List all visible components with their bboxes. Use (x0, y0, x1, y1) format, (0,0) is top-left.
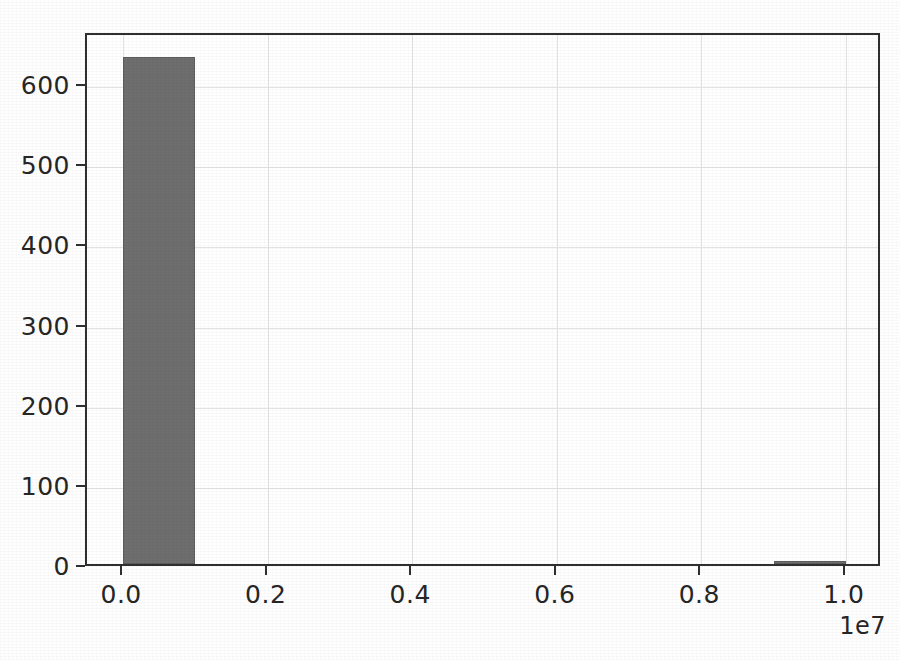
y-tick-mark (76, 325, 85, 327)
x-tick-label: 0.8 (644, 580, 754, 609)
x-tick-label: 0.6 (500, 580, 610, 609)
gridline-x-0.6 (557, 35, 558, 564)
x-tick-mark (843, 566, 845, 575)
y-tick-label: 500 (0, 151, 70, 180)
gridline-x-0.4 (412, 35, 413, 564)
y-tick-mark (76, 565, 85, 567)
gridline-y-100 (87, 488, 878, 489)
x-tick-label: 0.4 (355, 580, 465, 609)
x-tick-label: 1.0 (789, 580, 899, 609)
y-tick-mark (76, 405, 85, 407)
gridline-y-200 (87, 408, 878, 409)
y-tick-label: 600 (0, 71, 70, 100)
gridline-y-500 (87, 167, 878, 168)
y-tick-mark (76, 164, 85, 166)
x-tick-mark (554, 566, 556, 575)
matplotlib-figure: 0100200300400500600 0.00.20.40.60.81.0 1… (0, 0, 900, 660)
gridline-x-1.0 (846, 35, 847, 564)
y-tick-label: 300 (0, 311, 70, 340)
x-tick-label: 0.0 (66, 580, 176, 609)
gridline-y-300 (87, 328, 878, 329)
histogram-bar (774, 561, 846, 564)
y-tick-label: 100 (0, 471, 70, 500)
plot-axes (85, 33, 880, 566)
gridline-y-600 (87, 87, 878, 88)
x-tick-mark (265, 566, 267, 575)
x-tick-mark (698, 566, 700, 575)
x-tick-mark (409, 566, 411, 575)
gridline-y-400 (87, 247, 878, 248)
gridline-x-0.8 (701, 35, 702, 564)
y-tick-mark (76, 244, 85, 246)
x-axis-offset-text: 1e7 (839, 612, 886, 640)
x-tick-mark (120, 566, 122, 575)
y-tick-label: 200 (0, 391, 70, 420)
y-tick-mark (76, 84, 85, 86)
y-tick-mark (76, 485, 85, 487)
gridline-x-0.2 (268, 35, 269, 564)
x-tick-label: 0.2 (211, 580, 321, 609)
y-tick-label: 0 (0, 552, 70, 581)
y-tick-label: 400 (0, 231, 70, 260)
histogram-bar (123, 57, 195, 564)
